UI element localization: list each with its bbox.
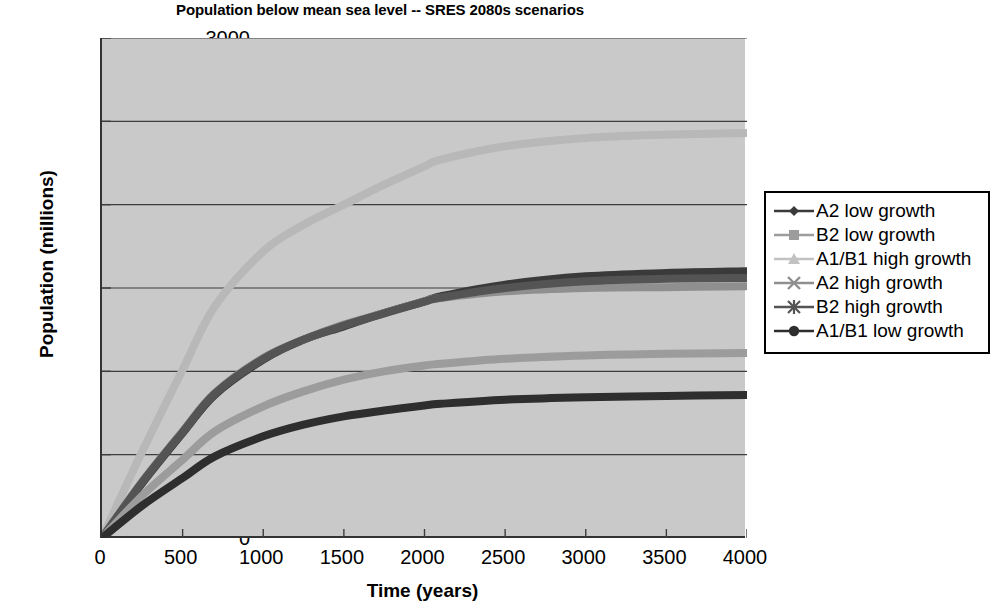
legend-item[interactable]: A2 low growth xyxy=(772,199,988,223)
x-tick-label: 3500 xyxy=(619,546,709,568)
x-tick-label: 1000 xyxy=(216,546,306,568)
legend-marker-diamond-icon xyxy=(772,200,816,222)
legend-marker-x-icon xyxy=(772,272,816,294)
x-tick-label: 2500 xyxy=(458,546,548,568)
series-line xyxy=(102,353,747,538)
legend-item[interactable]: A1/B1 low growth xyxy=(772,319,988,343)
x-axis-label: Time (years) xyxy=(100,580,745,602)
chart-container: Population below mean sea level -- SRES … xyxy=(0,0,1002,614)
legend-label: A2 low growth xyxy=(816,200,935,222)
legend-key xyxy=(772,248,816,270)
chart-title: Population below mean sea level -- SRES … xyxy=(0,0,760,20)
x-tick-label: 0 xyxy=(55,546,145,568)
x-tick-label: 1500 xyxy=(297,546,387,568)
x-tick-label: 3000 xyxy=(539,546,629,568)
x-tick-label: 500 xyxy=(136,546,226,568)
legend-label: A2 high growth xyxy=(816,272,943,294)
legend-item[interactable]: B2 high growth xyxy=(772,295,988,319)
legend: A2 low growthB2 low growthA1/B1 high gro… xyxy=(764,191,990,354)
legend-label: B2 low growth xyxy=(816,224,935,246)
legend-label: A1/B1 high growth xyxy=(816,248,971,270)
plot-area xyxy=(100,38,745,538)
legend-item[interactable]: A2 high growth xyxy=(772,271,988,295)
y-axis-label: Population (millions) xyxy=(36,114,58,414)
legend-label: A1/B1 low growth xyxy=(816,320,964,342)
legend-marker-circle-icon xyxy=(772,320,816,342)
x-tick-label: 4000 xyxy=(700,546,790,568)
legend-key xyxy=(772,224,816,246)
x-tick-label: 2000 xyxy=(378,546,468,568)
legend-marker-triangle-icon xyxy=(772,248,816,270)
legend-marker-square-icon xyxy=(772,224,816,246)
legend-marker-asterisk-icon xyxy=(772,296,816,318)
legend-item[interactable]: B2 low growth xyxy=(772,223,988,247)
legend-key xyxy=(772,200,816,222)
legend-label: B2 high growth xyxy=(816,296,943,318)
legend-key xyxy=(772,296,816,318)
series-canvas xyxy=(102,38,747,538)
legend-item[interactable]: A1/B1 high growth xyxy=(772,247,988,271)
series-line xyxy=(102,133,747,538)
legend-key xyxy=(772,272,816,294)
legend-key xyxy=(772,320,816,342)
